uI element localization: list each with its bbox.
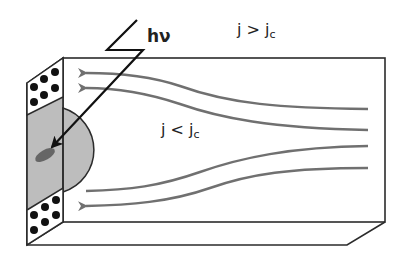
inner-region-label: j < jc <box>160 120 200 141</box>
outer-region-label: j > jc <box>236 20 276 41</box>
streamline-4 <box>86 168 368 206</box>
superconducting-strip-diagram: hν j > jc j < jc <box>0 0 411 263</box>
current-streamlines <box>86 73 368 206</box>
hotspot-region <box>63 108 94 192</box>
photon-label: hν <box>147 26 171 46</box>
